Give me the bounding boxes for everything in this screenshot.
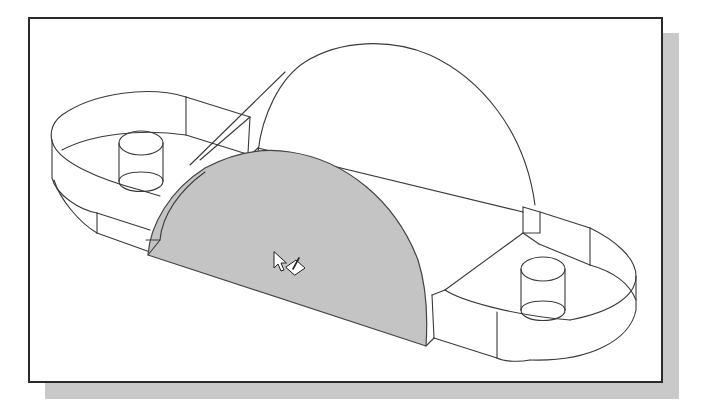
right-boss[interactable] [521,257,565,321]
cad-viewport[interactable] [0,0,707,411]
left-boss[interactable] [119,131,163,192]
rib-front-face-selected[interactable] [146,151,427,346]
base-plate-right-end[interactable] [426,207,636,361]
